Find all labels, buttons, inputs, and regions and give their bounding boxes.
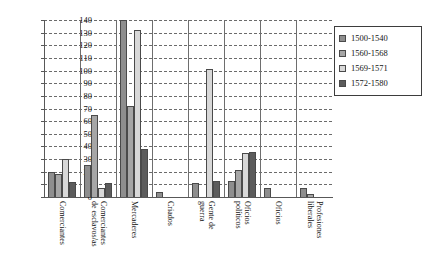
legend-swatch-icon xyxy=(339,35,346,42)
x-axis-label: Profesionesliberales xyxy=(306,201,323,238)
bar xyxy=(84,165,91,197)
bar xyxy=(141,149,148,197)
x-axis-label: Criados xyxy=(166,201,175,226)
bar xyxy=(192,183,199,197)
bar xyxy=(48,172,55,197)
bar xyxy=(228,181,235,197)
bar xyxy=(55,174,62,197)
chart-legend: 1500-15401560-15681569-15711572-1580 xyxy=(334,26,422,96)
bar xyxy=(134,30,141,197)
bar xyxy=(91,115,98,197)
legend-label: 1569-1571 xyxy=(351,64,388,73)
x-axis-label-cell: Comerciantesde esclavos/as xyxy=(80,199,116,278)
bar-groups xyxy=(44,20,332,197)
bar-group xyxy=(296,20,332,197)
x-axis-labels: ComerciantesComerciantesde esclavos/asMe… xyxy=(44,199,332,278)
bar xyxy=(206,69,213,197)
legend-label: 1560-1568 xyxy=(351,49,388,58)
bar xyxy=(69,182,76,197)
x-axis-label-line: Oficios xyxy=(243,201,252,225)
bar xyxy=(307,194,314,197)
bar-group xyxy=(116,20,152,197)
legend-label: 1500-1540 xyxy=(351,34,388,43)
x-axis-label-line: de esclavos/as xyxy=(90,201,99,247)
x-axis-label-line: Mercaderes xyxy=(130,201,139,238)
bar xyxy=(249,152,256,198)
bar xyxy=(213,181,220,197)
legend-item: 1572-1580 xyxy=(339,76,418,91)
bar-group xyxy=(260,20,296,197)
bar-group xyxy=(152,20,188,197)
x-axis-label-line: Oficios xyxy=(274,201,283,225)
x-axis-label-cell: Criados xyxy=(152,199,188,278)
y-axis-tick-mark xyxy=(41,197,45,198)
bar xyxy=(98,188,105,197)
bar-group xyxy=(188,20,224,197)
legend-item: 1500-1540 xyxy=(339,31,418,46)
bar xyxy=(264,188,271,197)
bar-group xyxy=(224,20,260,197)
x-axis-label-cell: Oficiospolíticos xyxy=(224,199,260,278)
x-axis-label-line: Criados xyxy=(166,201,175,226)
bar xyxy=(62,159,69,197)
x-axis-label: Mercaderes xyxy=(130,201,139,238)
x-axis-label-cell: Comerciantes xyxy=(44,199,80,278)
legend-swatch-icon xyxy=(339,50,346,57)
x-axis-label-line: Comerciantes xyxy=(99,201,108,245)
bar xyxy=(127,106,134,197)
x-axis-label-cell: Mercaderes xyxy=(116,199,152,278)
bar-chart: 1401301201101009080706050403020100 Comer… xyxy=(0,0,429,278)
x-axis-label-line: liberales xyxy=(306,201,315,238)
bar xyxy=(156,192,163,197)
legend-swatch-icon xyxy=(339,65,346,72)
legend-item: 1560-1568 xyxy=(339,46,418,61)
x-axis-label: Comerciantesde esclavos/as xyxy=(90,201,107,247)
legend-label: 1572-1580 xyxy=(351,79,388,88)
x-axis-label: Comerciantes xyxy=(58,201,67,245)
x-axis-label-line: guerra xyxy=(198,201,207,230)
legend-swatch-icon xyxy=(339,80,346,87)
bar xyxy=(235,170,242,197)
x-axis-label-cell: Oficios xyxy=(260,199,296,278)
x-axis-label: Oficios xyxy=(274,201,283,225)
bar xyxy=(120,20,127,197)
x-axis-label-cell: Profesionesliberales xyxy=(296,199,332,278)
legend-item: 1569-1571 xyxy=(339,61,418,76)
x-axis-label-line: Profesiones xyxy=(315,201,324,238)
x-axis-label-line: políticos xyxy=(234,201,243,229)
x-axis-label: Gente deguerra xyxy=(198,201,215,230)
x-axis-label-line: Gente de xyxy=(207,201,216,230)
bar xyxy=(105,183,112,197)
bar xyxy=(242,153,249,197)
bar-group xyxy=(80,20,116,197)
bar-group xyxy=(44,20,80,197)
bar xyxy=(300,188,307,197)
x-axis-label-cell: Gente deguerra xyxy=(188,199,224,278)
x-axis-label: Oficiospolíticos xyxy=(234,201,251,229)
x-axis-label-line: Comerciantes xyxy=(58,201,67,245)
